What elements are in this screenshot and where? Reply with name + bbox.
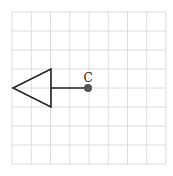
- grid-diagram: C: [0, 0, 173, 176]
- point-c-label: C: [83, 71, 92, 85]
- point-c: [84, 84, 92, 92]
